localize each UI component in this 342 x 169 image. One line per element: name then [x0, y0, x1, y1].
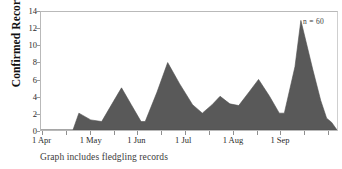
y-tick-mark: [36, 45, 40, 46]
x-tick-label: 1 May: [80, 136, 102, 145]
area-series-path: [41, 20, 337, 130]
x-tick-label: 1 Sep: [270, 136, 289, 145]
plot-area: [40, 11, 338, 131]
x-tick-mark: [42, 131, 43, 135]
x-tick-mark: [304, 131, 305, 135]
x-tick-label: 1 Aug: [223, 136, 244, 145]
y-tick-mark: [36, 97, 40, 98]
x-tick-mark: [137, 131, 138, 135]
x-tick-mark: [280, 131, 281, 135]
y-tick-mark: [36, 11, 40, 12]
x-tick-mark: [328, 131, 329, 135]
chart-figure: Confirmed Records n = 60 Graph includes …: [0, 0, 342, 169]
y-tick-label: 6: [20, 76, 37, 85]
x-tick-mark: [90, 131, 91, 135]
y-tick-label: 12: [20, 24, 37, 33]
chart-caption: Graph includes fledgling records: [40, 152, 168, 162]
x-tick-mark: [161, 131, 162, 135]
y-tick-mark: [36, 114, 40, 115]
x-tick-label: 1 Jul: [175, 136, 191, 145]
x-tick-mark: [233, 131, 234, 135]
area-series-svg: [41, 12, 337, 130]
y-tick-label: 8: [20, 58, 37, 67]
y-tick-mark: [36, 28, 40, 29]
x-tick-label: 1 Apr: [32, 136, 51, 145]
x-tick-mark: [257, 131, 258, 135]
y-tick-label: 10: [20, 41, 37, 50]
y-tick-mark: [36, 62, 40, 63]
x-tick-mark: [66, 131, 67, 135]
sample-size-annotation: n = 60: [303, 17, 324, 26]
y-tick-label: 2: [20, 110, 37, 119]
y-tick-mark: [36, 80, 40, 81]
x-tick-label: 1 Jun: [127, 136, 145, 145]
y-tick-mark: [36, 131, 40, 132]
x-tick-mark: [185, 131, 186, 135]
y-tick-label: 4: [20, 93, 37, 102]
x-tick-mark: [209, 131, 210, 135]
y-tick-label: 14: [20, 7, 37, 16]
x-tick-mark: [114, 131, 115, 135]
